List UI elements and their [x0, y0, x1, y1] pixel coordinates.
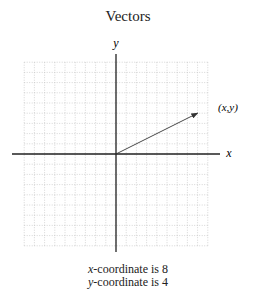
y-axis-label: y	[112, 36, 119, 50]
vector-label: (x,y)	[218, 101, 238, 114]
y-text: -coordinate is 4	[93, 275, 168, 289]
x-axis-label: x	[225, 146, 232, 160]
vector-plot: y x (x,y)	[0, 0, 256, 296]
y-coordinate-caption: y-coordinate is 4	[0, 276, 256, 289]
x-text: -coordinate is 8	[93, 262, 168, 276]
